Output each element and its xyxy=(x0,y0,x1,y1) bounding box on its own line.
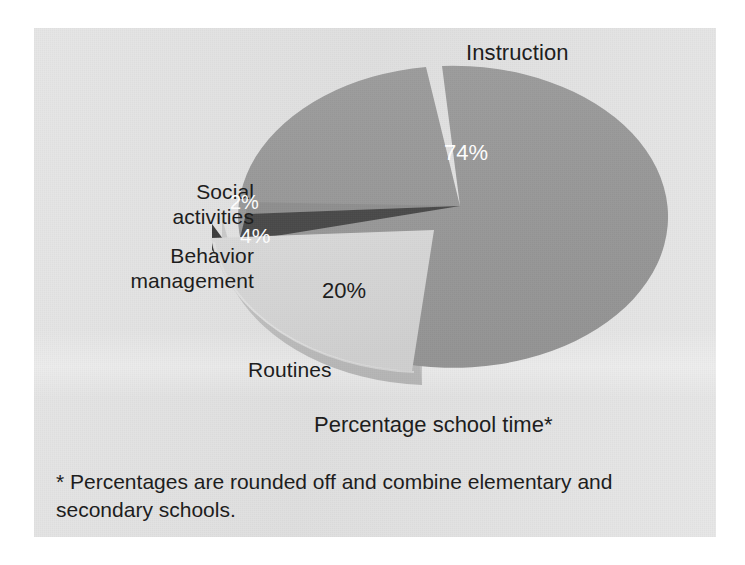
slice-label-social-activities: Social activities xyxy=(58,180,254,230)
slice-label-routines: Routines xyxy=(248,358,332,383)
chart-footnote: * Percentages are rounded off and combin… xyxy=(56,468,686,523)
pie-chart: Instruction Social activities Behavior m… xyxy=(34,28,716,537)
slice-label-behavior-management: Behavior management xyxy=(46,244,254,294)
figure-page: Instruction Social activities Behavior m… xyxy=(0,0,745,565)
chart-axis-title: Percentage school time* xyxy=(314,412,552,438)
slice-label-instruction: Instruction xyxy=(466,40,569,66)
scanned-page: Instruction Social activities Behavior m… xyxy=(34,28,716,537)
